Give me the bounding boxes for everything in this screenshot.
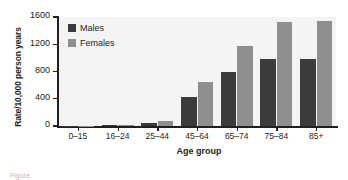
bar-males-5 bbox=[260, 59, 276, 126]
bar-females-6 bbox=[317, 21, 333, 126]
y-axis-title: Rate/10,000 person years bbox=[13, 7, 23, 147]
x-tick-label: 16–24 bbox=[106, 131, 130, 141]
bar-females-3 bbox=[198, 82, 214, 126]
x-tick-mark bbox=[118, 127, 119, 131]
bar-group bbox=[300, 17, 332, 126]
y-tick-mark bbox=[53, 71, 57, 72]
y-tick-mark bbox=[53, 98, 57, 99]
x-tick-label: 45–64 bbox=[185, 131, 209, 141]
y-tick-mark bbox=[53, 16, 57, 17]
chart-figure: Rate/10,000 person years 040080012001600… bbox=[0, 0, 348, 180]
y-tick-mark bbox=[53, 44, 57, 45]
y-tick-label: 1600 bbox=[30, 10, 50, 20]
figure-caption: Figure bbox=[10, 172, 30, 180]
x-tick-label: 25–44 bbox=[145, 131, 169, 141]
bar-females-5 bbox=[277, 22, 293, 126]
x-tick-mark bbox=[237, 127, 238, 131]
x-tick-mark bbox=[157, 127, 158, 131]
bar-group bbox=[181, 17, 213, 126]
y-tick-mark bbox=[53, 125, 57, 126]
legend-label-females: Females bbox=[80, 38, 115, 48]
x-tick-label: 0–15 bbox=[68, 131, 87, 141]
bar-males-2 bbox=[141, 123, 157, 126]
y-tick: 400 bbox=[53, 98, 57, 99]
legend-swatch-females bbox=[68, 39, 76, 47]
x-tick-label: 85+ bbox=[309, 131, 323, 141]
legend-item-males: Males bbox=[68, 21, 115, 34]
y-tick-label: 0 bbox=[45, 119, 50, 129]
bar-males-1 bbox=[102, 125, 118, 126]
y-tick-label: 800 bbox=[35, 65, 50, 75]
bar-males-4 bbox=[221, 72, 237, 127]
bar-group bbox=[221, 17, 253, 126]
x-tick-label: 75–84 bbox=[265, 131, 289, 141]
x-tick-label: 65–74 bbox=[225, 131, 249, 141]
bar-males-3 bbox=[181, 97, 197, 126]
bar-females-2 bbox=[158, 121, 174, 126]
x-tick-mark bbox=[78, 127, 79, 131]
y-tick: 0 bbox=[53, 125, 57, 126]
y-tick: 1200 bbox=[53, 44, 57, 45]
y-tick-label: 400 bbox=[35, 92, 50, 102]
x-tick-mark bbox=[316, 127, 317, 131]
bar-females-1 bbox=[118, 125, 134, 126]
y-tick-label: 1200 bbox=[30, 38, 50, 48]
y-tick: 800 bbox=[53, 71, 57, 72]
legend-swatch-males bbox=[68, 24, 76, 32]
x-tick-mark bbox=[197, 127, 198, 131]
x-axis-title: Age group bbox=[0, 146, 348, 156]
legend-item-females: Females bbox=[68, 36, 115, 49]
bar-group bbox=[260, 17, 292, 126]
bar-males-6 bbox=[300, 59, 316, 126]
chart-legend: MalesFemales bbox=[68, 21, 115, 51]
legend-label-males: Males bbox=[80, 23, 104, 33]
bar-females-4 bbox=[237, 46, 253, 126]
bar-group bbox=[141, 17, 173, 126]
y-tick: 1600 bbox=[53, 16, 57, 17]
x-tick-mark bbox=[276, 127, 277, 131]
